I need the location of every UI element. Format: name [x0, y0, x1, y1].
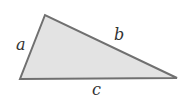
triangle-shape: [20, 15, 177, 79]
triangle-diagram: a b c: [0, 0, 183, 97]
side-label-a: a: [16, 35, 26, 54]
side-label-c: c: [92, 80, 101, 97]
side-label-b: b: [114, 25, 124, 44]
